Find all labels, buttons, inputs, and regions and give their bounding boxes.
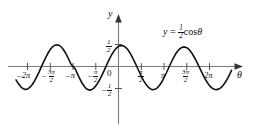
equation-lhs: y xyxy=(163,26,167,37)
x-tick-label-2pi: 2π xyxy=(204,71,213,80)
equation-annotation: y=12cosθ xyxy=(163,25,202,41)
y-axis xyxy=(115,14,122,124)
x-tick-label-neg-pi-over-2: −π2 xyxy=(87,69,98,84)
numerator: 3π xyxy=(181,69,190,76)
tick-value: 2π xyxy=(22,70,31,80)
numerator: 1 xyxy=(178,25,184,32)
x-axis-label: θ xyxy=(237,70,242,80)
equation-variable: θ xyxy=(197,26,202,37)
numerator: 1 xyxy=(107,83,113,90)
numerator: 3π xyxy=(47,69,56,76)
x-tick-label-neg-2pi: −2π xyxy=(16,71,30,80)
y-axis-label: y xyxy=(108,9,112,19)
tick-value: π xyxy=(161,70,165,80)
fraction: 3π2 xyxy=(47,69,56,84)
cosine-graph-figure: y θ 0 −2π −3π2 −π −π2 π2 π 3π2 2π 12 −12… xyxy=(0,0,255,129)
denominator: 2 xyxy=(178,32,184,40)
fraction: 3π2 xyxy=(181,69,190,84)
tick-value: 2π xyxy=(204,70,213,80)
x-tick-label-neg-3pi-over-2: −3π2 xyxy=(41,69,56,84)
equation-function: cos xyxy=(184,26,197,37)
x-tick-label-pi: π xyxy=(161,71,165,80)
numerator: 1 xyxy=(106,39,112,46)
y-tick-label-neg-one-half: −12 xyxy=(101,83,112,98)
denominator: 2 xyxy=(49,76,55,84)
denominator: 2 xyxy=(93,76,99,84)
denominator: 2 xyxy=(183,76,189,84)
denominator: 2 xyxy=(107,90,113,98)
fraction: π2 xyxy=(93,69,99,84)
graph-canvas xyxy=(0,0,255,129)
denominator: 2 xyxy=(138,76,144,84)
y-tick-label-one-half: 12 xyxy=(106,39,112,54)
x-tick-label-3pi-over-2: 3π2 xyxy=(181,69,190,84)
fraction: 12 xyxy=(107,83,113,98)
origin-label: 0 xyxy=(107,69,112,78)
numerator: π xyxy=(138,69,144,76)
numerator: π xyxy=(93,69,99,76)
x-tick-label-pi-over-2: π2 xyxy=(138,69,144,84)
fraction: π2 xyxy=(138,69,144,84)
denominator: 2 xyxy=(106,46,112,54)
x-tick-label-neg-pi: −π xyxy=(65,71,75,80)
coefficient-fraction: 12 xyxy=(178,25,184,41)
fraction: 12 xyxy=(106,39,112,54)
tick-value: π xyxy=(71,70,75,80)
equation-equals: = xyxy=(169,26,176,37)
